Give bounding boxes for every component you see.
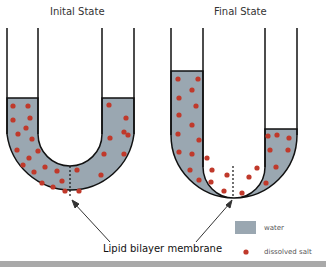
legend-salt-swatch: [243, 249, 248, 254]
legend-water-swatch: [235, 221, 256, 234]
legend-water-label: water: [264, 224, 284, 232]
legend-salt-label: dissolved salt: [264, 248, 312, 256]
bottom-bar: [0, 261, 326, 267]
final-u-tube: [171, 28, 297, 198]
initial-u-tube: [7, 28, 134, 198]
membrane-label: Lipid bilayer membrane: [103, 243, 222, 254]
membrane-arrows: [72, 200, 232, 242]
